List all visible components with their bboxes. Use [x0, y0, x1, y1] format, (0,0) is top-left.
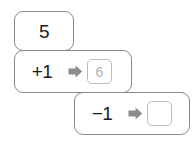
operation-label-add-one: +1 — [14, 62, 70, 81]
function-machine-diagram: 5 +1 6 −1 — [0, 0, 196, 146]
result-box-subtract-one[interactable] — [147, 101, 172, 126]
step-row-start: 5 — [14, 11, 74, 51]
result-box-add-one[interactable]: 6 — [87, 59, 112, 84]
arrow-right-icon — [128, 106, 143, 121]
operation-label-subtract-one: −1 — [74, 104, 130, 123]
arrow-right-icon — [68, 64, 83, 79]
step-row-add-one: +1 6 — [14, 50, 132, 93]
step-row-subtract-one: −1 — [74, 92, 190, 135]
start-value-label: 5 — [14, 22, 74, 41]
